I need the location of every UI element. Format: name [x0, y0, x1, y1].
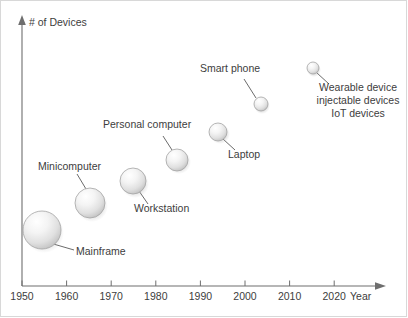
bubble-workstation[interactable] — [120, 168, 149, 198]
y-axis-arrow-icon — [18, 15, 26, 25]
bubble-label-workstation: Workstation — [134, 202, 189, 214]
chart-canvas — [0, 0, 408, 318]
x-tick-label-2000: 2000 — [227, 290, 263, 302]
bubble-wearable-iot[interactable] — [307, 62, 321, 77]
leader-line-minicomputer — [77, 174, 86, 189]
x-axis — [22, 281, 386, 290]
leader-line-personal-computer — [163, 136, 172, 150]
x-tick-label-1960: 1960 — [49, 290, 85, 302]
x-tick-label-1980: 1980 — [138, 290, 174, 302]
bubble-label-personal-computer: Personal computer — [103, 118, 191, 130]
y-axis-title: # of Devices — [29, 16, 87, 28]
leader-line-smart-phone — [244, 79, 256, 98]
bubble-label-mainframe: Mainframe — [76, 245, 126, 257]
x-tick-label-1970: 1970 — [93, 290, 129, 302]
x-tick-label-1950: 1950 — [4, 290, 40, 302]
x-axis-arrow-icon — [375, 282, 386, 290]
bubble-label-minicomputer: Minicomputer — [38, 160, 101, 172]
bubble-label-smart-phone: Smart phone — [200, 62, 260, 74]
bubble-label-wearable-line-2: injectable devices — [311, 94, 405, 107]
bubble-personal-computer[interactable] — [166, 149, 191, 174]
bubble-label-wearable-iot: Wearable device injectable devices IoT d… — [311, 81, 405, 119]
x-tick-label-2010: 2010 — [272, 290, 308, 302]
bubble-label-wearable-line-3: IoT devices — [311, 107, 405, 120]
bubble-laptop[interactable] — [209, 123, 230, 144]
x-axis-title: Year — [350, 290, 371, 302]
bubble-smart-phone[interactable] — [254, 97, 270, 114]
bubble-label-laptop: Laptop — [228, 148, 260, 160]
bubble-minicomputer[interactable] — [75, 188, 108, 222]
bubble-chart-figure: # of Devices Year 1950 1960 1970 1980 19… — [0, 0, 408, 318]
x-tick-label-2020: 2020 — [316, 290, 352, 302]
y-axis — [18, 15, 26, 286]
x-tick-label-1990: 1990 — [182, 290, 218, 302]
bubble-mainframe[interactable] — [23, 211, 64, 253]
bubble-label-wearable-line-1: Wearable device — [311, 81, 405, 94]
